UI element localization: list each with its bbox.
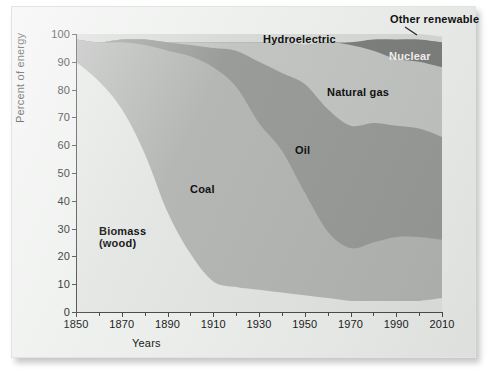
- x-tick-1910: [213, 313, 214, 317]
- x-minor-tick-1940: [282, 313, 283, 316]
- label-nuclear: Nuclear: [389, 50, 431, 62]
- label-biomass: Biomass (wood): [99, 225, 146, 249]
- x-tick-1930: [259, 313, 260, 317]
- label-hydroelectric: Hydroelectric: [263, 33, 336, 45]
- y-tick-label-80: 80: [58, 84, 70, 96]
- y-tick-90: [72, 62, 76, 63]
- y-tick-20: [72, 256, 76, 257]
- x-minor-tick-1980: [373, 313, 374, 316]
- y-axis-line: [76, 34, 77, 313]
- x-tick-label-1950: 1950: [292, 318, 317, 330]
- x-tick-2010: [442, 313, 443, 317]
- label-natural-gas: Natural gas: [327, 86, 389, 98]
- y-tick-label-60: 60: [58, 139, 70, 151]
- y-tick-50: [72, 173, 76, 174]
- x-tick-1870: [122, 313, 123, 317]
- y-axis-title: Percent of energy: [14, 3, 26, 123]
- y-tick-80: [72, 90, 76, 91]
- x-tick-label-1890: 1890: [155, 318, 180, 330]
- label-coal: Coal: [190, 183, 215, 195]
- y-tick-60: [72, 145, 76, 146]
- x-tick-label-1970: 1970: [338, 318, 363, 330]
- label-biomass-line1: Biomass: [99, 225, 146, 237]
- stacked-area-chart: [76, 34, 442, 312]
- label-biomass-line2: (wood): [99, 237, 136, 249]
- x-axis-tick-labels: 185018701890191019301950197019902010: [76, 318, 442, 334]
- plot-area: [76, 34, 442, 312]
- y-axis-tick-labels: 1009080706050403020100: [38, 34, 70, 312]
- y-tick-label-50: 50: [58, 167, 70, 179]
- y-tick-label-10: 10: [58, 278, 70, 290]
- y-tick-label-90: 90: [58, 56, 70, 68]
- y-tick-label-20: 20: [58, 250, 70, 262]
- x-tick-label-1850: 1850: [64, 318, 89, 330]
- y-tick-70: [72, 117, 76, 118]
- x-axis-title: Years: [132, 337, 161, 349]
- label-other-renewable: Other renewable: [390, 13, 479, 25]
- x-tick-label-1870: 1870: [109, 318, 134, 330]
- y-tick-100: [72, 34, 76, 35]
- y-tick-label-70: 70: [58, 111, 70, 123]
- x-tick-1850: [76, 313, 77, 317]
- x-tick-1950: [305, 313, 306, 317]
- x-minor-tick-1900: [190, 313, 191, 316]
- x-tick-label-1990: 1990: [384, 318, 409, 330]
- y-tick-30: [72, 229, 76, 230]
- y-tick-label-40: 40: [58, 195, 70, 207]
- y-tick-40: [72, 201, 76, 202]
- x-minor-tick-1860: [99, 313, 100, 316]
- x-minor-tick-2000: [419, 313, 420, 316]
- x-tick-label-2010: 2010: [430, 318, 455, 330]
- y-tick-label-0: 0: [64, 306, 70, 318]
- x-minor-tick-1880: [145, 313, 146, 316]
- x-tick-label-1910: 1910: [201, 318, 226, 330]
- label-oil: Oil: [295, 144, 310, 156]
- figure-card: 1009080706050403020100 18501870189019101…: [11, 6, 476, 358]
- x-tick-1990: [396, 313, 397, 317]
- x-tick-1890: [168, 313, 169, 317]
- x-tick-1970: [351, 313, 352, 317]
- y-tick-label-30: 30: [58, 223, 70, 235]
- x-tick-label-1930: 1930: [247, 318, 272, 330]
- screenshot-root: 1009080706050403020100 18501870189019101…: [0, 0, 494, 378]
- y-tick-10: [72, 284, 76, 285]
- x-minor-tick-1920: [236, 313, 237, 316]
- x-minor-tick-1960: [328, 313, 329, 316]
- y-tick-label-100: 100: [51, 28, 70, 40]
